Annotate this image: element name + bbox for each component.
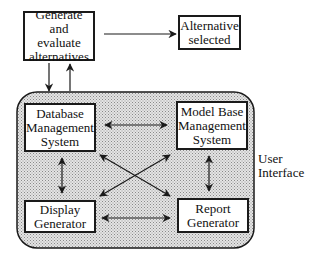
- database-management-box: Database Management System: [24, 103, 96, 152]
- user-interface-label: User Interface: [258, 152, 304, 180]
- model-base-management-box: Model Base Management System: [176, 101, 248, 150]
- alternative-selected-box: Alternative selected: [178, 15, 241, 50]
- report-generator-box: Report Generator: [177, 198, 249, 233]
- display-generator-box: Display Generator: [24, 200, 96, 233]
- generate-evaluate-box: Generate and evaluate alternatives: [23, 11, 95, 61]
